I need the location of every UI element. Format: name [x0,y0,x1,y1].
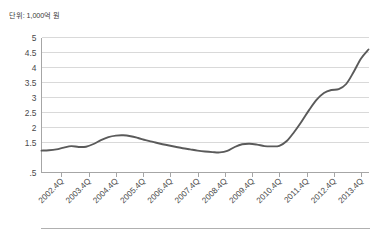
y-tick-label: 4 [32,63,37,73]
x-axis-tick-marks [62,173,362,177]
x-tick-label: 2005.4Q [119,177,148,206]
x-tick-label: 2009.4Q [228,177,257,206]
x-tick-label: 2013.4Q [337,177,366,206]
x-tick-label: 2011.4Q [282,177,310,205]
x-tick-label: 2012.4Q [309,177,338,206]
x-axis-tick-labels: 2002.4Q2003.4Q2004.4Q2005.4Q2006.4Q2007.… [37,177,365,206]
y-tick-label: 3 [32,93,37,103]
y-tick-label: 3.5 [25,78,37,88]
x-tick-label: 2010.4Q [255,177,284,206]
y-tick-label: 2 [32,123,37,133]
y-axis-tick-labels: 54.543.532.521.5.5 [25,33,37,178]
data-series-line [42,50,369,153]
y-tick-label: 2.5 [25,108,37,118]
y-tick-label: 1.5 [25,138,37,148]
line-chart-figure: 단위: 1,000억 원 54.543.532.521.5.5 2002.4Q2… [0,0,392,236]
x-tick-label: 2007.4Q [173,177,202,206]
y-tick-label: 4.5 [25,48,37,58]
x-tick-label: 2003.4Q [64,177,93,206]
y-tick-label: 5 [32,33,37,43]
x-tick-label: 2008.4Q [200,177,229,206]
footer-divider [41,228,370,229]
x-tick-label: 2002.4Q [37,177,66,206]
x-tick-label: 2006.4Q [146,177,175,206]
y-tick-label: .5 [30,168,37,178]
chart-plot-area: 54.543.532.521.5.5 2002.4Q2003.4Q2004.4Q… [0,0,392,236]
x-tick-label: 2004.4Q [91,177,120,206]
